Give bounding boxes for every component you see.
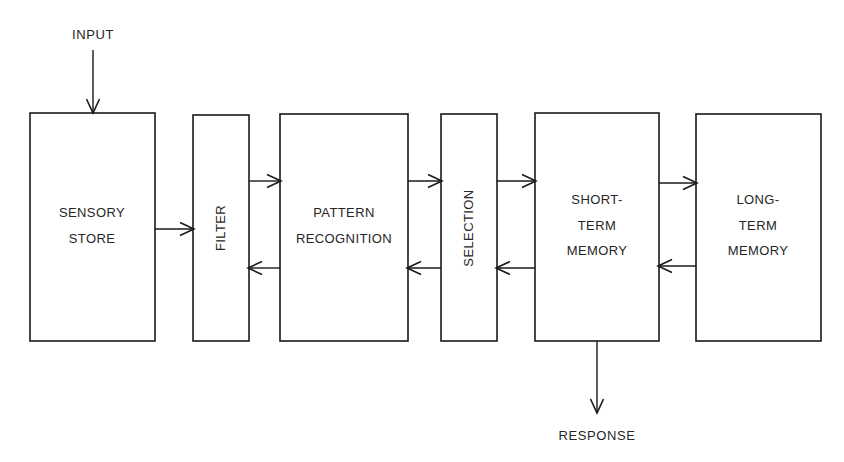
box-label-short-term-memory-line3: MEMORY bbox=[567, 238, 628, 264]
label-input: INPUT bbox=[72, 22, 114, 48]
box-label-long-term-memory-line2: TERM bbox=[739, 213, 777, 239]
box-label-short-term-memory-line1: SHORT- bbox=[571, 187, 622, 213]
diagram-svg bbox=[0, 0, 844, 462]
box-label-long-term-memory-line1: LONG- bbox=[736, 187, 779, 213]
box-label-pattern-recognition-line1: PATTERN bbox=[313, 200, 375, 226]
box-label-sensory-store-line2: STORE bbox=[69, 226, 116, 252]
box-label-short-term-memory-line2: TERM bbox=[578, 213, 616, 239]
box-label-selection: SELECTION bbox=[456, 189, 482, 266]
box-label-filter: FILTER bbox=[208, 205, 234, 251]
label-response: RESPONSE bbox=[558, 423, 635, 449]
box-label-long-term-memory-line3: MEMORY bbox=[728, 238, 789, 264]
box-label-sensory-store-line1: SENSORY bbox=[59, 200, 125, 226]
diagram-canvas: INPUT RESPONSE SENSORY STORE FILTER PATT… bbox=[0, 0, 844, 462]
box-label-pattern-recognition-line2: RECOGNITION bbox=[296, 226, 392, 252]
